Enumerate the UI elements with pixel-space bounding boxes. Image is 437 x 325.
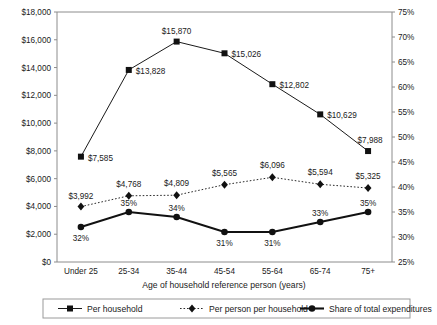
data-point-label: $12,802 xyxy=(279,81,309,90)
right-axis-tick-label: 50% xyxy=(398,133,414,142)
data-point-marker xyxy=(221,229,228,236)
chart-background xyxy=(0,0,437,325)
data-point-label: $7,988 xyxy=(358,136,383,145)
right-axis-tick-label: 25% xyxy=(398,258,414,267)
data-point-marker xyxy=(174,39,180,45)
data-point-marker xyxy=(173,214,180,221)
data-point-marker xyxy=(222,50,228,56)
legend-marker xyxy=(67,306,73,312)
data-point-label: 31% xyxy=(216,239,232,248)
left-axis-tick-label: $18,000 xyxy=(21,8,51,17)
data-point-marker xyxy=(269,81,275,87)
data-point-label: $6,096 xyxy=(260,161,285,170)
right-axis-tick-label: 65% xyxy=(398,58,414,67)
category-axis-label: 55-64 xyxy=(262,267,283,276)
data-point-marker xyxy=(126,67,132,73)
category-axis-label: 65-74 xyxy=(310,267,331,276)
data-point-label: 34% xyxy=(168,204,184,213)
data-point-marker xyxy=(125,209,132,216)
right-axis-tick-label: 30% xyxy=(398,233,414,242)
data-point-marker xyxy=(309,305,316,312)
right-axis-tick-label: 35% xyxy=(398,208,414,217)
data-point-label: $15,870 xyxy=(162,27,192,36)
right-axis-tick-label: 45% xyxy=(398,158,414,167)
data-point-label: $3,992 xyxy=(68,192,93,201)
category-axis-label: 25-34 xyxy=(118,267,139,276)
left-axis-tick-label: $0 xyxy=(42,258,52,267)
data-point-label: 35% xyxy=(121,199,137,208)
data-point-label: $5,565 xyxy=(212,169,237,178)
category-axis-label: 35-44 xyxy=(166,267,187,276)
chart-container: $0$2,000$4,000$6,000$8,000$10,000$12,000… xyxy=(0,0,437,325)
dual-axis-line-chart: $0$2,000$4,000$6,000$8,000$10,000$12,000… xyxy=(0,0,437,325)
data-point-marker xyxy=(78,154,84,160)
data-point-marker xyxy=(365,148,371,154)
chart-legend: Per householdPer person per householdSha… xyxy=(43,299,432,318)
data-point-label: $5,594 xyxy=(308,168,333,177)
data-point-label: 33% xyxy=(312,209,328,218)
category-axis-label: Under 25 xyxy=(64,267,98,276)
left-axis-tick-label: $14,000 xyxy=(21,64,51,73)
right-axis-tick-label: 55% xyxy=(398,108,414,117)
legend-item-label[interactable]: Per person per household xyxy=(209,304,308,314)
data-point-marker xyxy=(67,306,73,312)
right-axis-tick-label: 60% xyxy=(398,83,414,92)
left-axis-tick-label: $8,000 xyxy=(26,147,51,156)
left-axis-tick-label: $16,000 xyxy=(21,36,51,45)
data-point-marker xyxy=(365,209,372,216)
legend-marker xyxy=(309,305,316,312)
right-axis-tick-label: 40% xyxy=(398,183,414,192)
data-point-marker xyxy=(269,229,276,236)
data-point-label: 32% xyxy=(73,234,89,243)
data-point-label: $15,026 xyxy=(232,50,262,59)
category-axis-label: 75+ xyxy=(361,267,375,276)
category-axis-label: 45-54 xyxy=(214,267,235,276)
data-point-label: $5,325 xyxy=(356,172,381,181)
left-axis-tick-label: $10,000 xyxy=(21,119,51,128)
left-axis-tick-label: $2,000 xyxy=(26,230,51,239)
data-point-label: 35% xyxy=(360,199,376,208)
left-axis-tick-label: $12,000 xyxy=(21,91,51,100)
left-axis-tick-label: $4,000 xyxy=(26,202,51,211)
data-point-label: $13,828 xyxy=(136,67,166,76)
legend-item-label[interactable]: Per household xyxy=(87,304,143,314)
right-axis-tick-label: 75% xyxy=(398,8,414,17)
data-point-marker xyxy=(317,111,323,117)
right-axis-tick-label: 70% xyxy=(398,33,414,42)
left-axis-tick-label: $6,000 xyxy=(26,175,51,184)
data-point-marker xyxy=(78,224,85,231)
legend-item-label[interactable]: Share of total expenditures xyxy=(329,304,432,314)
data-point-marker xyxy=(317,219,324,226)
data-point-label: 31% xyxy=(264,239,280,248)
data-point-label: $10,629 xyxy=(327,111,357,120)
data-point-label: $4,809 xyxy=(164,179,189,188)
data-point-label: $4,768 xyxy=(116,180,141,189)
x-axis-title: Age of household reference person (years… xyxy=(142,280,306,290)
data-point-label: $7,585 xyxy=(88,154,113,163)
